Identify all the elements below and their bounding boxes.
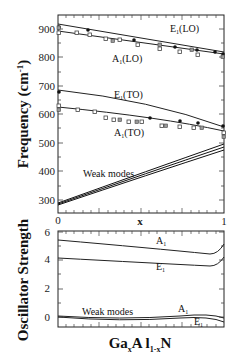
ytick-2: 2 [45,282,51,294]
ytick-800: 800 [39,51,56,63]
ytick-500: 500 [39,137,56,149]
xtick-0: 0 [55,214,61,226]
upper-bottom-ticks [66,208,216,213]
label-e1-lo: E1(LO) [170,23,199,35]
ytick-700: 700 [39,80,56,92]
a1-lo-line [58,31,224,54]
e1-strength-line [58,257,224,266]
label-e1-to: E1(TO) [114,89,143,101]
label-weak-modes-upper: Weak modes [83,168,134,179]
a1-strength-line [58,240,224,254]
ytick-0: 0 [45,311,51,323]
x-axis-compound-title: GaxA l1-xN [109,335,172,354]
lower-y-axis-title: Oscillator Strength [15,218,31,341]
upper-top-ticks [66,15,216,20]
label-weak-modes-lower: Weak modes [82,306,133,317]
ytick-400: 400 [39,165,56,177]
xtick-1: 1 [221,215,227,227]
lower-y-ticks [58,232,224,317]
label-e1-lower: E1 [156,261,165,273]
label-a1-to: A1(TO) [114,127,144,139]
upper-y-axis-title: Frequency (cm-1) [15,60,32,168]
x-axis-label: x [137,215,143,227]
label-a1-lo: A1(LO) [112,53,142,65]
label-a1-weak: A1 [178,303,188,315]
ytick-300: 300 [39,194,56,206]
ytick-600: 600 [39,108,56,120]
ytick-6: 6 [45,226,51,238]
figure: 900 800 700 600 500 400 300 Frequency (c… [0,0,236,359]
upper-plot-frame [58,15,224,213]
ytick-4: 4 [45,253,51,265]
label-a1-lower: A1 [156,235,166,247]
filled-points [57,25,225,128]
ytick-900: 900 [39,23,56,35]
